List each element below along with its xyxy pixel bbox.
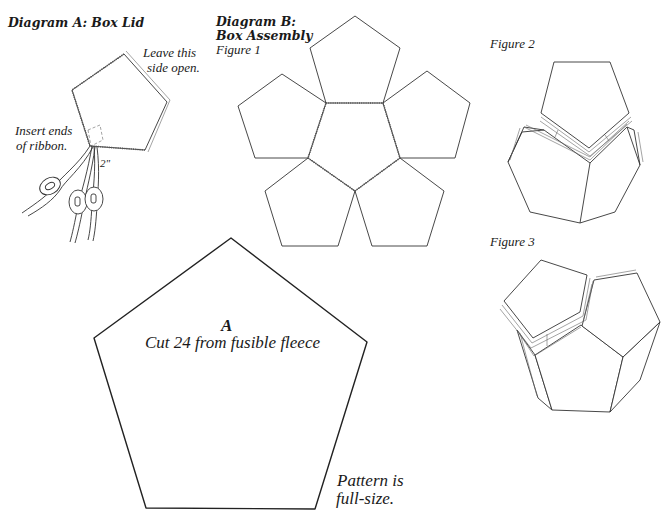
figure-1-label: Figure 1 <box>216 43 261 57</box>
callout-ribbon-line2: of ribbon. <box>16 139 67 153</box>
figure-2-label: Figure 2 <box>490 37 535 51</box>
callout-open-side-line2: side open. <box>147 61 200 75</box>
figure-3-assembly <box>500 260 660 412</box>
diagram-b-title-line2: Box Assembly <box>216 29 312 42</box>
net-pentagon-left <box>238 74 326 158</box>
net-pentagon-right <box>383 71 470 158</box>
callout-ribbon-line1: Insert ends <box>15 124 72 138</box>
callout-measure: 2" <box>100 158 110 170</box>
net-pentagon-bottom-right <box>355 158 444 246</box>
callout-open-side-line1: Leave this <box>143 46 196 60</box>
pattern-note-line2: full-size. <box>336 490 394 508</box>
figure-1-net <box>238 16 470 246</box>
diagram-b-title-line1: Diagram B: <box>216 15 296 28</box>
figure-2-assembly <box>508 62 643 223</box>
pattern-note-line1: Pattern is <box>337 472 404 490</box>
pattern-instruction: Cut 24 from fusible fleece <box>145 334 320 352</box>
net-pentagon-top <box>310 16 400 103</box>
diagram-a-title: Diagram A: Box Lid <box>8 16 144 29</box>
pattern-pentagon-a <box>94 238 367 509</box>
figure-3-label: Figure 3 <box>490 235 535 249</box>
diagram-canvas <box>0 0 671 516</box>
net-pentagon-bottom-left <box>265 158 355 246</box>
button-toggle-icon <box>36 174 103 214</box>
